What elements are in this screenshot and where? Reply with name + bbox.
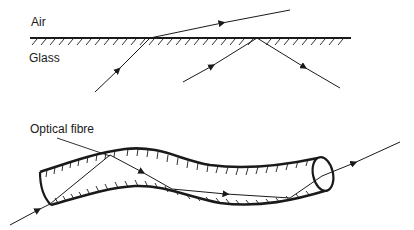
reflected-ray — [183, 38, 340, 88]
fibre-upper-wall — [40, 148, 318, 172]
boundary-hatching — [32, 39, 343, 45]
diagram-canvas — [0, 0, 414, 230]
optical-fibre-panel — [10, 138, 400, 225]
guided-ray — [10, 142, 400, 225]
glass-label: Glass — [29, 52, 60, 64]
optics-diagram: Air Glass Optical fibre — [0, 0, 414, 230]
optical-fibre-label: Optical fibre — [30, 123, 94, 135]
fibre-right-end — [310, 155, 337, 192]
fibre-upper-hatching — [46, 149, 308, 177]
air-label: Air — [31, 16, 46, 28]
fibre-lower-wall — [51, 186, 328, 205]
fibre-left-end — [40, 172, 51, 205]
refraction-panel — [30, 10, 351, 92]
refracted-ray — [95, 10, 290, 92]
